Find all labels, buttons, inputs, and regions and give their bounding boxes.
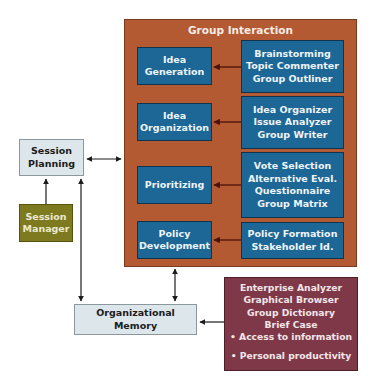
inner-arrows <box>214 67 241 240</box>
connector-arrows <box>0 0 373 389</box>
